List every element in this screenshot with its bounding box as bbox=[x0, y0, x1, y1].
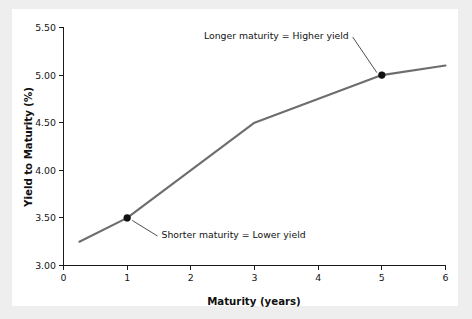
data-point-marker bbox=[124, 215, 131, 222]
data-series-group bbox=[79, 66, 445, 242]
data-point-marker bbox=[378, 72, 385, 79]
data-line-yield-curve bbox=[79, 66, 445, 242]
y-tick-label: 3.00 bbox=[35, 260, 56, 271]
x-tick-label: 3 bbox=[252, 272, 258, 283]
x-tick-label: 1 bbox=[124, 272, 130, 283]
figure-root: 3.003.504.004.505.005.50 0123456 Longer … bbox=[0, 0, 472, 319]
x-tick-label: 0 bbox=[61, 272, 67, 283]
y-tick-label: 5.50 bbox=[35, 22, 56, 33]
annotation-leader-line bbox=[132, 220, 157, 236]
annotation-leader-line bbox=[353, 37, 377, 73]
y-axis-title: Yield to Maturity (%) bbox=[23, 87, 34, 208]
x-tick-label: 6 bbox=[443, 272, 449, 283]
annotation-label: Longer maturity = Higher yield bbox=[204, 30, 349, 41]
x-tick-label: 5 bbox=[379, 272, 385, 283]
x-axis-title: Maturity (years) bbox=[207, 296, 301, 307]
x-tick-label: 4 bbox=[315, 272, 321, 283]
y-axis-ticks: 3.003.504.004.505.005.50 bbox=[35, 22, 63, 271]
y-tick-label: 3.50 bbox=[35, 212, 56, 223]
data-markers-group bbox=[124, 72, 385, 222]
x-axis-ticks: 0123456 bbox=[61, 266, 449, 283]
y-tick-label: 5.00 bbox=[35, 70, 56, 81]
x-tick-label: 2 bbox=[188, 272, 194, 283]
yield-curve-chart: 3.003.504.004.505.005.50 0123456 Longer … bbox=[0, 0, 472, 319]
y-tick-label: 4.00 bbox=[35, 165, 56, 176]
annotation-label: Shorter maturity = Lower yield bbox=[162, 229, 306, 240]
annotations-group: Longer maturity = Higher yieldShorter ma… bbox=[132, 30, 377, 240]
y-tick-label: 4.50 bbox=[35, 117, 56, 128]
